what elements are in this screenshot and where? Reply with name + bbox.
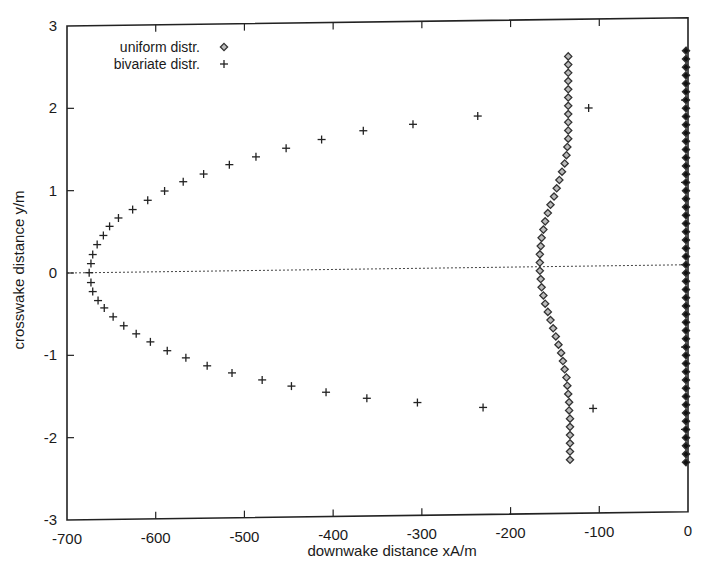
diamond-open-icon — [220, 43, 227, 50]
x-axis-title: downwake distance xA/m — [307, 542, 476, 559]
series-filled-diamonds — [682, 47, 689, 466]
legend-label-bivariate: bivariate distr. — [114, 56, 200, 72]
chart: -700-600-500-400-300-200-1000 -3-2-10123… — [0, 0, 710, 577]
y-tick-label: -2 — [44, 429, 57, 446]
axis-ticks — [67, 19, 688, 519]
y-tick-label: 2 — [49, 99, 57, 116]
legend: uniform distr. bivariate distr. — [114, 39, 228, 72]
x-tick-label: -700 — [52, 530, 82, 547]
x-tick-label: -200 — [496, 524, 526, 541]
y-tick-label: -1 — [44, 346, 57, 363]
zero-reference-line — [67, 265, 688, 273]
plus-icon — [220, 60, 228, 68]
x-tick-label: -400 — [318, 526, 348, 543]
x-tick-label: -600 — [141, 529, 171, 546]
series-uniform-distr — [536, 53, 573, 464]
x-tick-label: -100 — [584, 523, 614, 540]
y-axis-title: crosswake distance y/m — [10, 190, 27, 349]
y-tick-label: 0 — [49, 264, 57, 281]
x-tick-label: -500 — [229, 528, 259, 545]
x-tick-label: 0 — [684, 522, 692, 539]
plot-frame — [67, 18, 688, 520]
y-tick-labels: -3-2-10123 — [44, 17, 57, 528]
y-tick-label: 3 — [49, 17, 57, 34]
legend-label-uniform: uniform distr. — [120, 39, 200, 55]
y-tick-label: 1 — [49, 182, 57, 199]
y-tick-label: -3 — [44, 511, 57, 528]
series-bivariate-distr — [85, 104, 597, 412]
x-tick-label: -300 — [407, 525, 437, 542]
